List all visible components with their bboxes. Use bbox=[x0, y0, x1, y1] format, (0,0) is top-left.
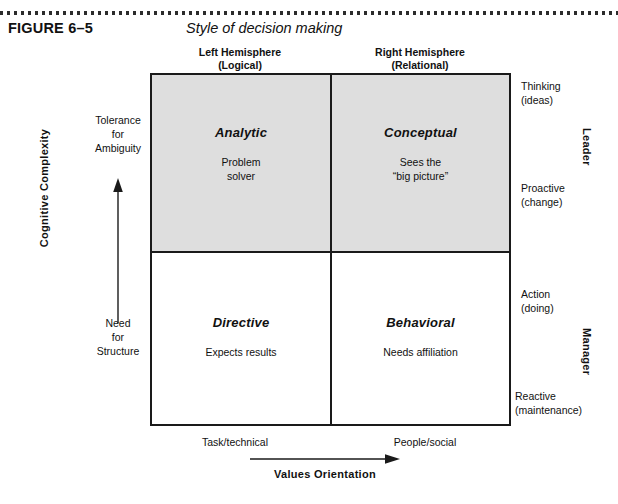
quadrant-analytic-title: Analytic bbox=[152, 125, 330, 140]
right-group-manager: Manager bbox=[573, 328, 593, 375]
figure-title: Style of decision making bbox=[186, 20, 342, 36]
quadrant-directive-content: Directive Expects results bbox=[152, 315, 330, 360]
quadrant-directive-title: Directive bbox=[152, 315, 330, 330]
right-label-reactive: Reactive(maintenance) bbox=[515, 390, 611, 417]
quadrant-behavioral-description: Needs affiliation bbox=[332, 346, 509, 360]
quadrant-directive-description: Expects results bbox=[152, 346, 330, 360]
right-label-proactive: Proactive(change) bbox=[521, 182, 617, 209]
quadrant-behavioral: Behavioral Needs affiliation bbox=[330, 251, 509, 424]
quadrant-analytic: Analytic Problemsolver bbox=[152, 75, 330, 251]
quadrant-conceptual-description: Sees the“big picture” bbox=[332, 156, 509, 183]
quadrant-analytic-content: Analytic Problemsolver bbox=[152, 125, 330, 183]
quadrant-directive: Directive Expects results bbox=[152, 251, 330, 424]
x-axis-left-label: Task/technical bbox=[155, 436, 315, 448]
y-axis-arrow-icon bbox=[103, 178, 133, 323]
x-axis-right-label: People/social bbox=[345, 436, 505, 448]
column-header-right-hemisphere: Right Hemisphere (Relational) bbox=[330, 46, 510, 72]
right-group-leader: Leader bbox=[573, 128, 593, 166]
decision-style-matrix: Analytic Problemsolver Conceptual Sees t… bbox=[150, 73, 511, 426]
quadrant-conceptual-title: Conceptual bbox=[332, 125, 509, 140]
column-header-left-qualifier: (Logical) bbox=[150, 59, 330, 72]
column-header-left-name: Left Hemisphere bbox=[150, 46, 330, 59]
quadrant-analytic-description: Problemsolver bbox=[152, 156, 330, 183]
column-header-right-qualifier: (Relational) bbox=[330, 59, 510, 72]
quadrant-conceptual-content: Conceptual Sees the“big picture” bbox=[332, 125, 509, 183]
quadrant-conceptual: Conceptual Sees the“big picture” bbox=[330, 75, 509, 251]
x-axis-arrow-icon bbox=[250, 450, 400, 468]
figure-label: FIGURE 6–5 bbox=[8, 20, 93, 36]
quadrant-behavioral-content: Behavioral Needs affiliation bbox=[332, 315, 509, 360]
y-axis-high-label: ToleranceforAmbiguity bbox=[68, 113, 168, 155]
column-header-right-name: Right Hemisphere bbox=[330, 46, 510, 59]
right-label-thinking: Thinking(ideas) bbox=[521, 80, 617, 107]
x-axis-title: Values Orientation bbox=[230, 468, 420, 480]
top-dotted-divider bbox=[0, 11, 618, 15]
column-header-left-hemisphere: Left Hemisphere (Logical) bbox=[150, 46, 330, 72]
quadrant-behavioral-title: Behavioral bbox=[332, 315, 509, 330]
right-label-action: Action(doing) bbox=[521, 288, 617, 315]
y-axis-title: Cognitive Complexity bbox=[38, 113, 50, 263]
